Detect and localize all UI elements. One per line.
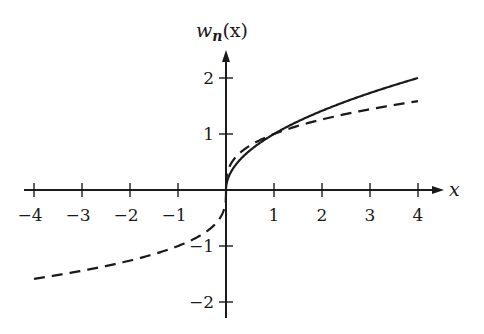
y-axis-label-main: w [196,19,212,41]
y-axis-label-subscript: n [212,28,222,44]
y-axis-label-argument: (x) [222,19,248,41]
x-tick-label: 4 [413,205,424,225]
x-tick-labels: −4−3−2−11234 [17,205,423,225]
function-plot: −4−3−2−11234 21−1−2 x wn(x) [0,0,484,334]
solid-curve [226,78,418,190]
x-tick-label: −3 [65,205,90,225]
y-tick-label: 1 [203,124,214,144]
y-axis-label: wn(x) [196,19,248,44]
x-axis-label: x [449,178,460,200]
x-tick-label: 1 [269,205,280,225]
y-tick-label: −2 [189,292,214,312]
x-axis-arrow-icon [432,186,444,194]
x-tick-label: −4 [17,205,42,225]
x-tick-label: 2 [317,205,328,225]
x-tick-label: −2 [113,205,138,225]
y-axis-arrow-icon [222,50,230,62]
y-tick-label: 2 [203,68,214,88]
x-tick-label: −1 [161,205,186,225]
x-tick-label: 3 [365,205,376,225]
